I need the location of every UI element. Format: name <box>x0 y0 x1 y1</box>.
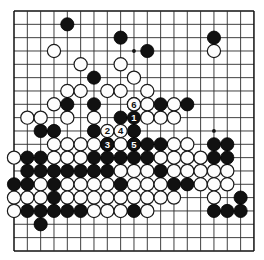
stone-black[interactable] <box>74 204 87 217</box>
stone-black[interactable] <box>61 18 74 31</box>
stone-white[interactable] <box>221 164 234 177</box>
stone-white[interactable] <box>181 138 194 151</box>
stone-white[interactable] <box>127 178 140 191</box>
stone-black[interactable] <box>101 164 114 177</box>
stone-black[interactable] <box>141 44 154 57</box>
stone-white[interactable] <box>7 191 20 204</box>
stone-black[interactable] <box>61 204 74 217</box>
stone-black[interactable] <box>101 151 114 164</box>
stone-white[interactable] <box>47 44 60 57</box>
stone-black[interactable] <box>21 178 34 191</box>
stone-black[interactable] <box>154 98 167 111</box>
stone-white[interactable] <box>7 204 20 217</box>
stone-white[interactable] <box>141 164 154 177</box>
stone-white[interactable] <box>74 84 87 97</box>
stone-white[interactable] <box>167 111 180 124</box>
stone-white[interactable] <box>47 151 60 164</box>
stone-black[interactable] <box>61 164 74 177</box>
stone-white[interactable] <box>61 178 74 191</box>
stone-black[interactable] <box>34 124 47 137</box>
stone-white[interactable] <box>87 178 100 191</box>
stone-white[interactable] <box>127 164 140 177</box>
stone-white[interactable] <box>74 191 87 204</box>
stone-black[interactable] <box>114 31 127 44</box>
stone-black[interactable] <box>154 138 167 151</box>
stone-white[interactable] <box>87 204 100 217</box>
stone-black[interactable] <box>87 164 100 177</box>
stone-white[interactable] <box>154 111 167 124</box>
stone-white[interactable] <box>74 58 87 71</box>
stone-white[interactable] <box>154 151 167 164</box>
stone-black[interactable] <box>87 98 100 111</box>
stone-black[interactable] <box>47 191 60 204</box>
stone-white[interactable] <box>207 191 220 204</box>
stone-white[interactable] <box>47 138 60 151</box>
stone-white[interactable] <box>114 84 127 97</box>
stone-white[interactable] <box>61 191 74 204</box>
stone-black[interactable] <box>127 151 140 164</box>
stone-white[interactable] <box>141 98 154 111</box>
stone-black[interactable] <box>61 98 74 111</box>
stone-black[interactable] <box>207 151 220 164</box>
stone-white[interactable] <box>194 178 207 191</box>
stone-black[interactable] <box>141 151 154 164</box>
stone-black[interactable] <box>34 164 47 177</box>
stone-white[interactable] <box>114 191 127 204</box>
stone-white[interactable] <box>61 151 74 164</box>
stone-black[interactable] <box>127 204 140 217</box>
stone-white[interactable] <box>87 191 100 204</box>
stone-white[interactable] <box>207 178 220 191</box>
stone-black[interactable] <box>234 191 247 204</box>
stone-black[interactable] <box>21 204 34 217</box>
stone-white[interactable] <box>127 71 140 84</box>
stone-black[interactable] <box>207 31 220 44</box>
stone-white[interactable] <box>221 178 234 191</box>
stone-white[interactable] <box>194 164 207 177</box>
stone-white[interactable] <box>34 111 47 124</box>
stone-white[interactable] <box>181 164 194 177</box>
stone-black[interactable] <box>221 151 234 164</box>
stone-white[interactable] <box>141 204 154 217</box>
stone-white[interactable] <box>101 178 114 191</box>
stone-black[interactable] <box>234 204 247 217</box>
stone-black[interactable] <box>21 151 34 164</box>
stone-white[interactable] <box>87 111 100 124</box>
stone-black[interactable] <box>114 111 127 124</box>
stone-white[interactable] <box>167 151 180 164</box>
stone-white[interactable] <box>154 178 167 191</box>
stone-white[interactable] <box>34 178 47 191</box>
stone-white[interactable] <box>34 191 47 204</box>
stone-white[interactable] <box>154 191 167 204</box>
stone-white[interactable] <box>61 138 74 151</box>
stone-black[interactable] <box>141 138 154 151</box>
stone-white[interactable] <box>87 138 100 151</box>
stone-black[interactable] <box>47 178 60 191</box>
go-board-canvas[interactable]: 123456 <box>0 0 264 260</box>
stone-black[interactable] <box>207 204 220 217</box>
stone-black[interactable] <box>87 151 100 164</box>
stone-white[interactable] <box>7 151 20 164</box>
stone-white[interactable] <box>74 178 87 191</box>
stone-white[interactable] <box>47 98 60 111</box>
stone-white[interactable] <box>21 111 34 124</box>
stone-black[interactable] <box>87 124 100 137</box>
stone-white[interactable] <box>101 84 114 97</box>
stone-white[interactable] <box>21 191 34 204</box>
stone-white[interactable] <box>74 138 87 151</box>
stone-white[interactable] <box>61 84 74 97</box>
stone-black[interactable] <box>7 178 20 191</box>
stone-white[interactable] <box>141 111 154 124</box>
stone-black[interactable] <box>47 204 60 217</box>
stone-white[interactable] <box>167 98 180 111</box>
stone-white[interactable] <box>101 204 114 217</box>
stone-black[interactable] <box>127 124 140 137</box>
stone-black[interactable] <box>87 71 100 84</box>
stone-black[interactable] <box>221 138 234 151</box>
stone-black[interactable] <box>167 178 180 191</box>
stone-black[interactable] <box>47 124 60 137</box>
stone-black[interactable] <box>21 164 34 177</box>
stone-white[interactable] <box>207 44 220 57</box>
stone-white[interactable] <box>114 164 127 177</box>
stone-black[interactable] <box>114 151 127 164</box>
stone-white[interactable] <box>207 164 220 177</box>
